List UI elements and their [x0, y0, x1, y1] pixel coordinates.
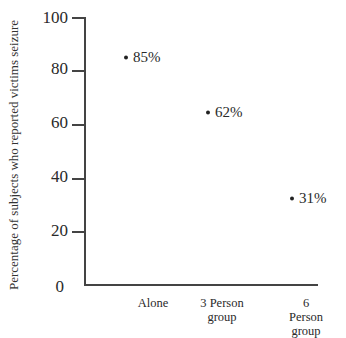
y-tick-80: [72, 70, 84, 72]
y-tick-label-40: 40: [51, 167, 68, 187]
data-point-6-person-group: 31%: [290, 190, 327, 207]
data-point-alone: 85%: [124, 49, 161, 66]
x-category-line: Alone: [138, 296, 169, 310]
y-tick-label-20: 20: [51, 221, 68, 241]
y-tick-100: [72, 17, 84, 19]
x-category-line: group: [200, 310, 243, 324]
x-axis-line: [84, 284, 318, 286]
x-category-alone: Alone: [138, 296, 169, 310]
x-category-line: 3 Person: [200, 296, 243, 310]
y-tick-label-100: 100: [43, 8, 69, 28]
y-tick-40: [72, 178, 84, 180]
y-axis-label: Percentage of subjects who reported vict…: [6, 20, 22, 290]
y-tick-60: [72, 124, 84, 126]
data-label: 31%: [299, 190, 327, 207]
data-label: 85%: [133, 49, 161, 66]
x-category-line: group: [286, 324, 326, 338]
x-category-3-person-group: 3 Person group: [200, 296, 243, 324]
x-category-line: 6 Person: [286, 296, 326, 324]
y-tick-label-0: 0: [56, 277, 65, 297]
data-point-3-person-group: 62%: [206, 104, 243, 121]
y-tick-label-80: 80: [51, 59, 68, 79]
data-label: 62%: [215, 104, 243, 121]
point-marker-icon: [290, 196, 294, 200]
x-category-6-person-group: 6 Person group: [286, 296, 326, 338]
y-axis-line: [84, 17, 86, 285]
y-tick-20: [72, 231, 84, 233]
y-tick-label-60: 60: [51, 113, 68, 133]
point-marker-icon: [124, 55, 128, 59]
point-marker-icon: [206, 110, 210, 114]
